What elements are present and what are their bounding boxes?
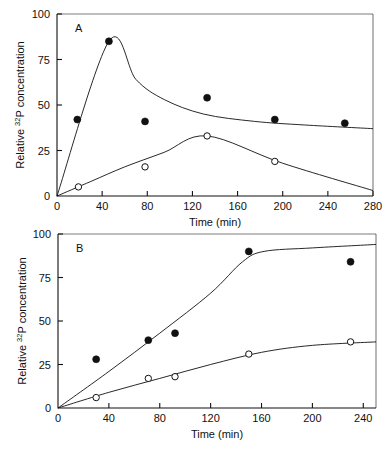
y-tick-label: 25 bbox=[39, 359, 51, 371]
data-point-open bbox=[204, 133, 210, 139]
x-tick-label: 120 bbox=[183, 200, 201, 212]
data-point-filled bbox=[172, 330, 179, 337]
y-axis-title-part1: Relative bbox=[14, 126, 26, 169]
data-point-filled bbox=[245, 248, 252, 255]
x-tick-label: 240 bbox=[354, 412, 372, 424]
x-tick-label: 280 bbox=[364, 200, 382, 212]
y-tick-label: 0 bbox=[44, 190, 50, 202]
data-point-open bbox=[142, 164, 148, 170]
data-point-open bbox=[93, 394, 99, 400]
x-tick-label: 0 bbox=[55, 412, 61, 424]
y-tick-label: 25 bbox=[38, 145, 50, 157]
panel-b-plot: 025507510004080120160200240Time (min)Rel… bbox=[0, 226, 392, 454]
data-point-filled bbox=[341, 120, 348, 127]
y-axis-title: Relative 32P concentration bbox=[15, 257, 28, 384]
data-point-open bbox=[75, 184, 81, 190]
x-tick-label: 120 bbox=[201, 412, 219, 424]
data-point-open bbox=[272, 158, 278, 164]
x-tick-label: 40 bbox=[96, 200, 108, 212]
x-tick-label: 200 bbox=[274, 200, 292, 212]
y-tick-label: 50 bbox=[39, 315, 51, 327]
data-point-filled bbox=[105, 38, 112, 45]
panel-a: 025507510004080120160200240280Time (min)… bbox=[0, 0, 392, 228]
data-point-open bbox=[172, 373, 178, 379]
axis-frame bbox=[58, 234, 376, 408]
x-tick-label: 80 bbox=[141, 200, 153, 212]
y-axis-title-text: Relative 32P concentration bbox=[13, 41, 26, 168]
panel-letter: A bbox=[75, 22, 83, 34]
y-axis-title-text: Relative 32P concentration bbox=[15, 257, 28, 384]
panel-b: 025507510004080120160200240Time (min)Rel… bbox=[0, 226, 392, 454]
y-tick-label: 50 bbox=[38, 99, 50, 111]
axis-frame bbox=[57, 14, 373, 196]
data-point-filled bbox=[204, 94, 211, 101]
x-axis-title: Time (min) bbox=[191, 428, 243, 440]
x-tick-label: 160 bbox=[228, 200, 246, 212]
data-point-filled bbox=[271, 116, 278, 123]
y-axis-title-part2: P concentration bbox=[14, 41, 26, 117]
y-axis-title-superscript: 32 bbox=[13, 118, 22, 126]
series-curve-filled-circles bbox=[57, 37, 373, 196]
panel-letter: B bbox=[76, 242, 83, 254]
figure-container: 025507510004080120160200240280Time (min)… bbox=[0, 0, 392, 454]
series-curve-open-circles bbox=[57, 136, 373, 196]
x-tick-label: 200 bbox=[303, 412, 321, 424]
series-curve-filled-circles bbox=[58, 244, 376, 408]
y-tick-label: 0 bbox=[45, 402, 51, 414]
data-point-open bbox=[246, 351, 252, 357]
x-tick-label: 240 bbox=[319, 200, 337, 212]
x-tick-label: 160 bbox=[252, 412, 270, 424]
x-tick-label: 0 bbox=[54, 200, 60, 212]
x-tick-label: 80 bbox=[154, 412, 166, 424]
y-axis-title: Relative 32P concentration bbox=[13, 41, 26, 168]
y-tick-label: 75 bbox=[39, 272, 51, 284]
x-tick-label: 40 bbox=[103, 412, 115, 424]
y-tick-label: 75 bbox=[38, 54, 50, 66]
y-axis-title-part1: Relative bbox=[16, 342, 28, 385]
data-point-open bbox=[347, 339, 353, 345]
data-point-filled bbox=[145, 337, 152, 344]
data-point-filled bbox=[93, 356, 100, 363]
data-point-filled bbox=[142, 118, 149, 125]
data-point-filled bbox=[74, 116, 81, 123]
data-point-filled bbox=[347, 258, 354, 265]
data-point-open bbox=[145, 375, 151, 381]
y-axis-title-superscript: 32 bbox=[15, 334, 24, 342]
y-tick-label: 100 bbox=[32, 8, 50, 20]
y-tick-label: 100 bbox=[33, 228, 51, 240]
y-axis-title-part2: P concentration bbox=[16, 257, 28, 333]
series-curve-open-circles bbox=[58, 342, 376, 408]
panel-a-plot: 025507510004080120160200240280Time (min)… bbox=[0, 0, 392, 228]
